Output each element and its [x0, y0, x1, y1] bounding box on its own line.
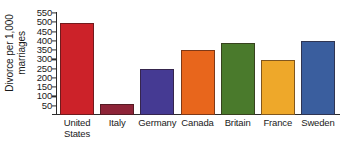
- plot-area: [57, 13, 338, 115]
- bar: [301, 41, 335, 115]
- x-axis-category-labels: United StatesItalyGermanyCanadaBritainFr…: [57, 117, 338, 151]
- y-axis-tick-labels: 55050045040035030025020015010050: [22, 13, 52, 115]
- bar-group: [301, 13, 335, 115]
- bar-group: [60, 13, 94, 115]
- y-tick-label: 50: [42, 101, 52, 111]
- y-tick-mark: [52, 77, 57, 78]
- y-tick-mark: [52, 12, 57, 13]
- y-tick-mark: [52, 87, 57, 88]
- bar-group: [221, 13, 255, 115]
- bar-group: [140, 13, 174, 115]
- bar: [60, 23, 94, 115]
- bar: [140, 69, 174, 115]
- x-label: Sweden: [292, 117, 340, 128]
- bar: [100, 104, 134, 115]
- y-tick-mark: [52, 49, 57, 50]
- bar: [221, 43, 255, 115]
- bar-group: [181, 13, 215, 115]
- y-tick-mark: [52, 40, 57, 41]
- bar: [261, 60, 295, 115]
- bar: [181, 50, 215, 115]
- bar-chart: Divorce per 1,000 marriages 550500450400…: [0, 0, 340, 154]
- bar-group: [100, 13, 134, 115]
- y-tick-mark: [52, 59, 57, 60]
- y-tick-mark: [52, 68, 57, 69]
- y-tick-mark: [52, 22, 57, 23]
- bar-group: [261, 13, 295, 115]
- y-tick-mark: [52, 105, 57, 106]
- y-tick-mark: [52, 31, 57, 32]
- y-tick-mark: [52, 96, 57, 97]
